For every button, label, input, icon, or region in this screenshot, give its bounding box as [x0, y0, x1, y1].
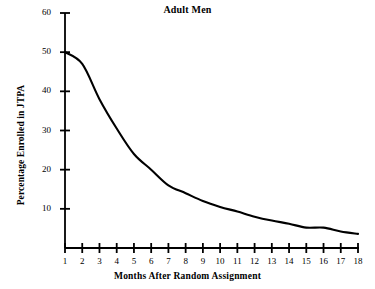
y-tick-label: 20	[27, 165, 51, 174]
data-series-line	[65, 52, 358, 234]
y-tick-label: 40	[27, 86, 51, 95]
y-tick-label: 60	[27, 8, 51, 17]
x-tick-label: 18	[348, 257, 368, 266]
chart-page: Adult Men Percentage Enrolled in JTPA Mo…	[0, 0, 375, 289]
y-tick-label: 10	[27, 204, 51, 213]
y-tick-label: 30	[27, 126, 51, 135]
axes-group	[65, 13, 359, 248]
y-tick-label: 50	[27, 47, 51, 56]
plot-area	[0, 0, 375, 289]
